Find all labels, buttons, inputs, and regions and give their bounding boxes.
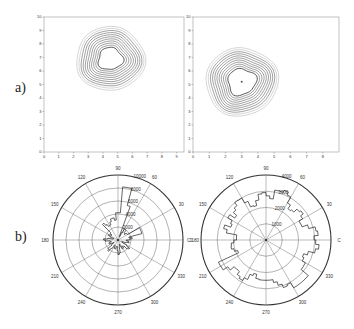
polar-plot-left: 9060300330300270240210180150120200040006… — [41, 166, 193, 315]
angle-label: 270 — [262, 310, 270, 315]
y-tick-label: 9 — [39, 28, 42, 33]
plot-frame — [193, 17, 339, 152]
x-tick-label: 1 — [58, 154, 61, 159]
x-tick-label: 2 — [224, 154, 227, 159]
angle-label: 180 — [41, 238, 49, 243]
y-tick-label: 3 — [39, 109, 42, 114]
angle-label: 90 — [263, 166, 269, 171]
angle-label: 120 — [226, 175, 234, 180]
y-tick-label: 8 — [39, 41, 42, 46]
angle-label: 330 — [325, 274, 333, 279]
y-tick-label: 8 — [188, 41, 191, 46]
center-dot — [117, 239, 119, 241]
center-dot — [265, 239, 267, 241]
x-tick-label: 5 — [117, 154, 120, 159]
y-tick-label: 4 — [39, 95, 42, 100]
y-tick-label: 9 — [188, 28, 191, 33]
x-tick-label: 0 — [192, 154, 195, 159]
radial-label: 10000 — [134, 174, 147, 179]
angle-label: 300 — [151, 300, 159, 305]
angle-label: 240 — [226, 300, 234, 305]
angle-label: 150 — [51, 202, 59, 207]
angle-label: C — [337, 238, 341, 243]
spoke — [234, 240, 267, 296]
radial-label: 1000 — [271, 222, 282, 227]
angle-label: 90 — [115, 166, 121, 171]
x-tick-label: 4 — [102, 154, 105, 159]
plot-frame — [44, 17, 184, 152]
y-tick-label: 6 — [188, 68, 191, 73]
y-tick-label: 10 — [37, 14, 42, 19]
x-tick-label: 3 — [241, 154, 244, 159]
spoke — [86, 184, 119, 240]
figure-canvas: 0123456789012345678910 01234567801234567… — [0, 0, 354, 329]
angle-label: 120 — [78, 175, 86, 180]
radial-label: 6000 — [128, 199, 139, 204]
center-marker — [241, 81, 242, 82]
x-tick-label: 4 — [257, 154, 260, 159]
contour-plot-left: 0123456789012345678910 — [37, 14, 184, 158]
radial-label: 8000 — [131, 187, 142, 192]
x-tick-label: 6 — [289, 154, 292, 159]
angle-label: 210 — [199, 274, 207, 279]
angle-label: 30 — [179, 202, 185, 207]
x-tick-label: 0 — [43, 154, 46, 159]
y-tick-label: 6 — [39, 68, 42, 73]
y-tick-label: 1 — [39, 136, 42, 141]
spoke — [266, 240, 322, 273]
angle-label: 150 — [199, 202, 207, 207]
angle-label: 60 — [152, 175, 158, 180]
radial-label: 2000 — [275, 206, 286, 211]
angle-label: 210 — [51, 274, 59, 279]
x-tick-label: 5 — [273, 154, 276, 159]
y-tick-label: 5 — [39, 82, 42, 87]
x-tick-label: 8 — [161, 154, 164, 159]
x-tick-label: 2 — [72, 154, 75, 159]
y-tick-label: 5 — [188, 82, 191, 87]
spoke — [62, 240, 118, 273]
y-tick-label: 4 — [188, 95, 191, 100]
x-tick-label: 7 — [305, 154, 308, 159]
y-tick-label: 2 — [39, 122, 42, 127]
y-tick-label: 1 — [188, 136, 191, 141]
spoke — [210, 208, 266, 241]
angle-label: 240 — [78, 300, 86, 305]
y-tick-label: 7 — [39, 55, 42, 60]
y-tick-label: 7 — [188, 55, 191, 60]
radial-label: 4000 — [282, 174, 293, 179]
x-tick-label: 8 — [322, 154, 325, 159]
angle-label: 60 — [300, 175, 306, 180]
spoke — [86, 240, 119, 296]
y-tick-label: 10 — [186, 14, 191, 19]
y-tick-label: 0 — [188, 149, 191, 154]
y-tick-label: 3 — [188, 109, 191, 114]
angle-label: 270 — [114, 310, 122, 315]
angle-label: 330 — [177, 274, 185, 279]
contour-plot-right: 012345678012345678910 — [186, 14, 339, 158]
x-tick-label: 6 — [131, 154, 134, 159]
x-tick-label: 9 — [176, 154, 179, 159]
x-tick-label: 1 — [208, 154, 211, 159]
angle-label: 300 — [299, 300, 307, 305]
y-tick-label: 2 — [188, 122, 191, 127]
y-tick-label: 0 — [39, 149, 42, 154]
x-tick-label: 3 — [87, 154, 90, 159]
polar-plot-right: 906030C330300270240210C 1801501201000200… — [187, 166, 341, 315]
data-profile — [102, 187, 141, 255]
angle-label: 30 — [327, 202, 333, 207]
spoke — [234, 184, 267, 240]
angle-label: C 180 — [187, 238, 200, 243]
spoke — [210, 240, 266, 273]
x-tick-label: 7 — [146, 154, 149, 159]
